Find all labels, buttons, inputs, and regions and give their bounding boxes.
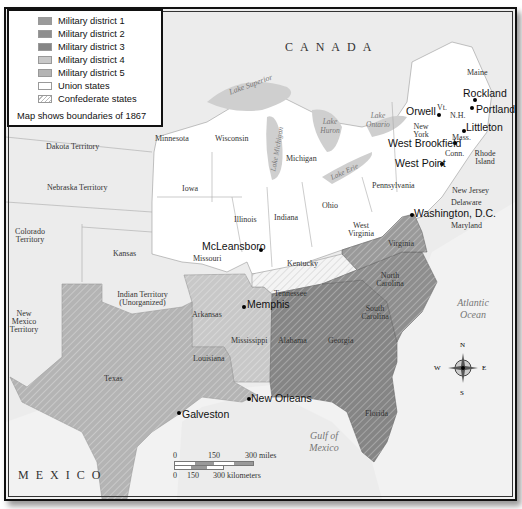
label-lake-huron: Lake Huron: [315, 118, 345, 135]
compass-e: E: [482, 364, 486, 372]
scale-mile-tick: 0: [173, 451, 177, 460]
legend-item-district-2: Military district 2: [38, 28, 125, 39]
label-virginia: Virginia: [388, 240, 414, 248]
swatch-icon: [38, 56, 52, 64]
label-maryland: Maryland: [451, 222, 482, 230]
label-ohio: Ohio: [322, 202, 338, 210]
label-nebraska-territory: Nebraska Territory: [47, 184, 107, 192]
city-mcleansboro: McLeansboro: [202, 241, 266, 252]
label-texas: Texas: [104, 375, 123, 383]
city-washington-dc: Washington, D.C.: [414, 208, 496, 219]
label-missouri: Missouri: [193, 255, 221, 263]
scale-km-tick: 300 kilometers: [213, 471, 261, 480]
swatch-icon: [38, 17, 52, 25]
label-wisconsin: Wisconsin: [215, 135, 248, 143]
compass-n: N: [460, 341, 465, 349]
legend-item-district-1: Military district 1: [38, 15, 125, 26]
map-legend: Military district 1 Military district 2 …: [7, 9, 163, 127]
label-minnesota: Minnesota: [155, 135, 189, 143]
label-mississippi: Mississippi: [231, 337, 267, 345]
region-mexico: MEXICO: [18, 468, 107, 483]
compass-w: W: [434, 364, 441, 372]
swatch-icon: [38, 43, 52, 51]
label-louisiana: Louisiana: [193, 355, 225, 363]
label-new-jersey: New Jersey: [452, 187, 489, 195]
label-colorado-territory: Colorado Territory: [10, 228, 50, 244]
city-dot-memphis: [242, 305, 246, 309]
label-georgia: Georgia: [328, 337, 354, 345]
label-pennsylvania: Pennsylvania: [372, 182, 415, 190]
legend-note: Map shows boundaries of 1867: [17, 111, 146, 121]
city-dot-galveston: [177, 411, 181, 415]
city-new-orleans: New Orleans: [251, 393, 312, 404]
legend-item-district-4: Military district 4: [38, 54, 125, 65]
scale-mile-tick: 150: [208, 451, 220, 460]
label-connecticut: Conn.: [445, 150, 464, 158]
label-kentucky: Kentucky: [287, 260, 318, 268]
label-new-mexico-territory: New Mexico Territory: [4, 310, 44, 334]
city-rockland: Rockland: [463, 88, 507, 99]
scale-km-tick: 0: [173, 471, 177, 480]
city-west-point: West Point: [395, 158, 446, 169]
legend-item-confederate-states: Confederate states: [38, 93, 137, 104]
label-michigan: Michigan: [286, 155, 317, 163]
label-kansas: Kansas: [113, 250, 136, 258]
label-rhode-island: Rhode Island: [470, 150, 500, 166]
city-memphis: Memphis: [247, 299, 290, 310]
hatch-swatch-icon: [38, 95, 52, 103]
city-west-brookfield: West Brookfield: [388, 138, 461, 149]
label-gulf-of-mexico: Gulf of Mexico: [300, 430, 348, 453]
label-delaware: Delaware: [451, 199, 482, 207]
label-alabama: Alabama: [278, 337, 307, 345]
label-south-carolina: South Carolina: [358, 305, 392, 321]
scale-km-tick: 150: [187, 471, 199, 480]
city-dot-portland: [470, 106, 474, 110]
swatch-icon: [38, 82, 52, 90]
label-atlantic-ocean: Atlantic Ocean: [448, 297, 498, 320]
swatch-icon: [38, 30, 52, 38]
label-dakota-territory: Dakota Territory: [46, 143, 99, 151]
label-tennessee: Tennessee: [274, 290, 307, 298]
label-north-carolina: North Carolina: [373, 272, 407, 288]
label-vermont: Vt.: [437, 104, 447, 112]
city-galveston: Galveston: [182, 409, 229, 420]
label-illinois: Illinois: [234, 216, 257, 224]
compass-rose-icon: N S E W: [440, 345, 486, 391]
compass-s: S: [460, 389, 464, 397]
label-indian-territory: Indian Territory (Unorganized): [115, 291, 170, 307]
label-arkansas: Arkansas: [192, 311, 222, 319]
label-maine: Maine: [467, 69, 487, 77]
swatch-icon: [38, 69, 52, 77]
label-florida: Florida: [365, 410, 388, 418]
city-orwell: Orwell: [406, 106, 436, 117]
city-portland: Portland: [476, 104, 515, 115]
label-west-virginia: West Virginia: [345, 222, 377, 238]
legend-item-district-3: Military district 3: [38, 41, 125, 52]
label-new-hampshire: N.H.: [450, 112, 466, 120]
label-iowa: Iowa: [182, 185, 198, 193]
city-littleton: Littleton: [466, 122, 503, 133]
region-canada: CANADA: [285, 40, 378, 55]
label-indiana: Indiana: [274, 214, 298, 222]
legend-item-district-5: Military district 5: [38, 67, 125, 78]
scale-km-bar: [174, 465, 224, 470]
city-dot-orwell: [437, 113, 441, 117]
scale-mile-tick: 300 miles: [245, 451, 276, 460]
label-lake-ontario: Lake Ontario: [358, 112, 398, 129]
legend-item-union-states: Union states: [38, 80, 110, 91]
